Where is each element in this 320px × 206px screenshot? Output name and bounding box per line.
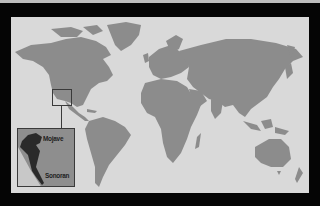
locator-rectangle (52, 89, 72, 106)
connector-line (61, 106, 62, 128)
australia (255, 139, 291, 167)
world-map: Mojave Sonoran (11, 17, 309, 193)
top-strip (0, 0, 320, 3)
south-america (85, 117, 131, 187)
desert-inset-map: Mojave Sonoran (17, 128, 75, 187)
label-sonoran: Sonoran (45, 171, 69, 180)
label-mojave: Mojave (43, 134, 63, 143)
bottom-caption-fragment (12, 198, 32, 206)
greenland (107, 22, 141, 51)
